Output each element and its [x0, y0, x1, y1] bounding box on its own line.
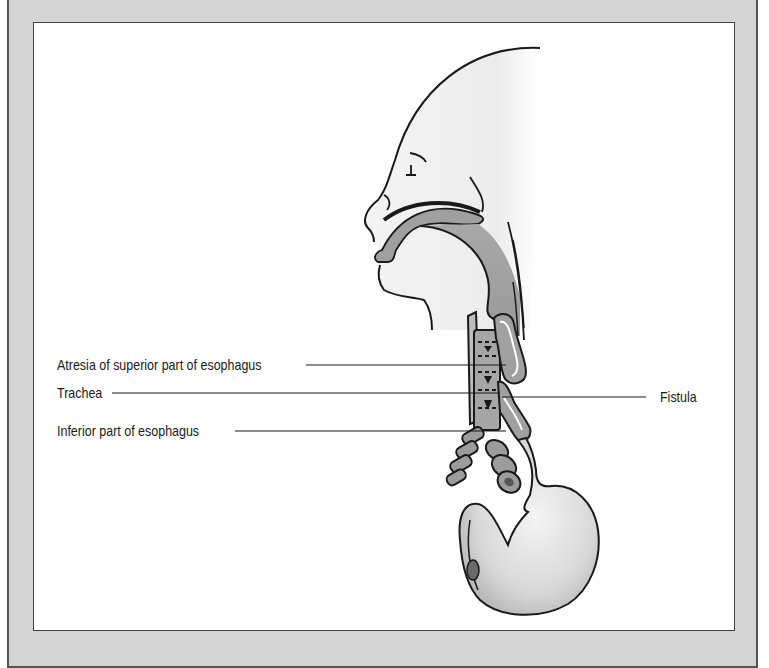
- leader-lines: [112, 365, 646, 431]
- trachea-esophagus: [445, 312, 531, 497]
- label-inferior-esophagus: Inferior part of esophagus: [57, 423, 199, 439]
- stomach: [460, 438, 599, 615]
- label-trachea: Trachea: [57, 385, 102, 401]
- label-atresia: Atresia of superior part of esophagus: [57, 357, 261, 373]
- label-fistula: Fistula: [660, 389, 697, 405]
